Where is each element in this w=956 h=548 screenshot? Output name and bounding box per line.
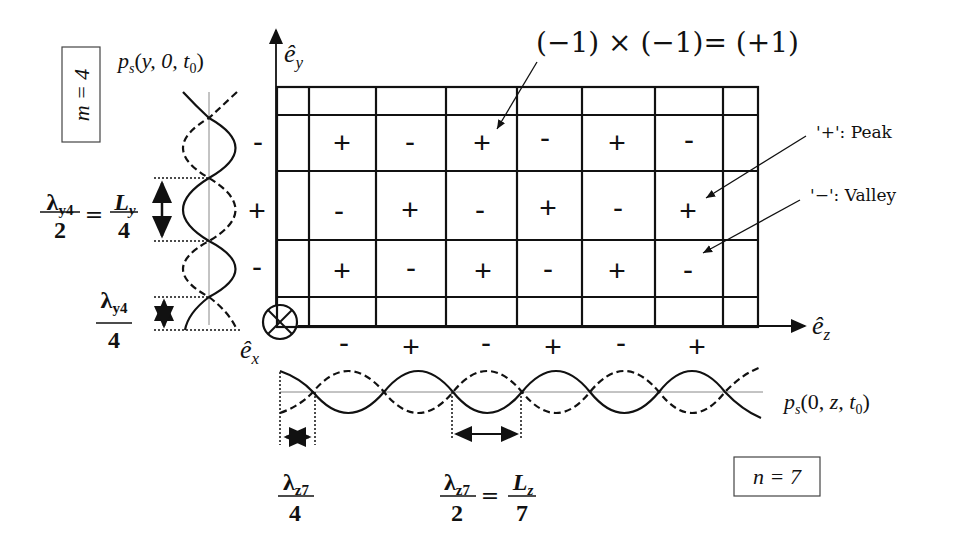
x-axis-label: êx — [240, 335, 260, 368]
svg-text:+: + — [608, 126, 626, 159]
z-quarter-formula: λz7 4 — [278, 469, 314, 526]
svg-text:λz7: λz7 — [444, 469, 470, 498]
y-wave-plot — [154, 92, 240, 330]
svg-text:+: + — [474, 254, 492, 287]
svg-text:Lz: Lz — [512, 469, 534, 498]
z-signs: - + - + - + — [339, 326, 706, 363]
svg-text:+: + — [333, 254, 351, 287]
svg-text:-: - — [406, 251, 416, 284]
svg-text:=: = — [85, 202, 103, 227]
product-annotation: (−1) × (−1)= (+1) — [536, 26, 799, 59]
svg-text:-: - — [334, 194, 344, 227]
x-axis-into-page-icon — [263, 305, 297, 339]
svg-text:-: - — [339, 326, 349, 359]
svg-text:λz7: λz7 — [283, 469, 309, 498]
y-sign: - — [253, 125, 263, 158]
z-wave-plot — [280, 367, 763, 445]
legend-peak: '+': Peak — [816, 122, 893, 142]
svg-text:Ly: Ly — [113, 189, 136, 218]
svg-text:+: + — [608, 254, 626, 287]
mode-diagram: m = 4 ps(y, 0, t0) - + - λy4 2 = Ly 4 λy… — [0, 0, 956, 548]
y-wave-label: ps(y, 0, t0) — [116, 48, 204, 76]
svg-text:+: + — [688, 330, 706, 363]
svg-text:4: 4 — [289, 500, 301, 526]
svg-text:+: + — [679, 194, 697, 227]
svg-text:7: 7 — [516, 500, 528, 526]
svg-text:λy4: λy4 — [47, 189, 74, 218]
svg-text:-: - — [475, 193, 485, 226]
svg-text:λy4: λy4 — [101, 287, 128, 316]
peak-pointer-arrow — [706, 136, 806, 198]
svg-text:-: - — [540, 121, 550, 154]
svg-text:+: + — [401, 193, 419, 226]
n-label: n = 7 — [753, 464, 802, 489]
svg-text:4: 4 — [118, 217, 130, 243]
svg-text:-: - — [543, 252, 553, 285]
svg-text:=: = — [481, 483, 499, 508]
svg-text:-: - — [684, 123, 694, 156]
svg-text:2: 2 — [54, 217, 66, 243]
svg-text:+: + — [539, 191, 557, 224]
svg-text:+: + — [333, 126, 351, 159]
svg-text:2: 2 — [451, 500, 463, 526]
m-mode-box: m = 4 — [62, 47, 100, 142]
svg-text:-: - — [683, 253, 693, 286]
svg-text:-: - — [616, 326, 626, 359]
m-label: m = 4 — [69, 69, 94, 122]
legend-valley: '−': Valley — [810, 185, 897, 205]
y-half-formula: λy4 2 = Ly 4 — [40, 189, 138, 243]
y-quarter-formula: λy4 4 — [96, 287, 132, 353]
grid-signs: + - + - + - - + - + - + + - + - + - — [333, 121, 697, 287]
svg-text:+: + — [402, 330, 420, 363]
z-half-formula: λz7 2 = Lz 7 — [440, 469, 536, 526]
svg-text:-: - — [613, 191, 623, 224]
svg-text:4: 4 — [108, 327, 120, 353]
y-sign: + — [248, 194, 266, 227]
z-axis-label: êz — [812, 311, 831, 344]
valley-pointer-arrow — [703, 200, 800, 253]
z-wave-label: ps(0, z, t0) — [782, 389, 870, 417]
svg-text:-: - — [405, 125, 415, 158]
svg-text:+: + — [473, 126, 491, 159]
y-axis-label: êy — [284, 39, 304, 72]
n-mode-box: n = 7 — [734, 457, 820, 496]
svg-text:+: + — [544, 330, 562, 363]
svg-text:-: - — [481, 326, 491, 359]
y-sign: - — [252, 250, 262, 283]
